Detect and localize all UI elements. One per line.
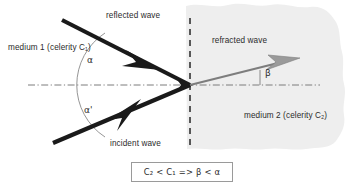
reflected-wave-label: reflected wave [106,12,160,20]
medium1-label: medium 1 (celerity C₁) [8,44,91,52]
incident-ray-arrowhead [108,99,141,131]
alpha-angle-label: α [87,56,93,65]
formula-box: C₂ < C₁ => β < α [131,162,233,182]
refracted-wave-label: refracted wave [212,37,267,45]
reflected-ray-line [62,20,190,85]
medium2-label: medium 2 (celerity C₂) [244,112,327,120]
beta-angle-label: β [265,69,271,78]
formula-text: C₂ < C₁ => β < α [144,167,221,177]
wave-refraction-diagram: reflected wave incident wave refracted w… [0,0,362,195]
incident-wave-label: incident wave [110,140,161,148]
alpha-prime-angle-label: α' [84,106,92,115]
refracted-ray-arrowhead [266,55,300,70]
